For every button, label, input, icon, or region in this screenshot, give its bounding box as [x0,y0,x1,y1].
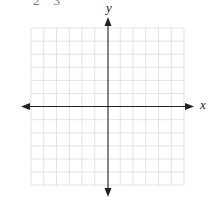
x-axis-left-arrow-icon [21,103,30,110]
y-axis-up-arrow-icon [105,17,112,26]
y-axis-label: y [106,0,112,16]
x-axis-right-arrow-icon [185,103,194,110]
x-axis-label: x [200,97,206,113]
y-axis-down-arrow-icon [105,188,112,197]
coordinate-plane [0,0,221,208]
